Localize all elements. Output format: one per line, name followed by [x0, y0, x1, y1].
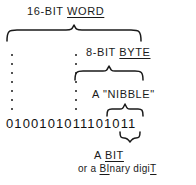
word-label-keyword: WORD: [67, 5, 104, 17]
nibble-label: A "NIBBLE": [92, 89, 155, 100]
bit-label-keyword: BIT: [105, 149, 124, 161]
guide-dot: [11, 81, 13, 83]
word-brace: [6, 24, 142, 42]
guide-dot: [11, 108, 13, 110]
bit-expansion-bi: BI: [100, 163, 110, 174]
bit-label-prefix: A: [94, 149, 105, 161]
guide-dot: [75, 108, 77, 110]
bit-brace: [119, 131, 141, 143]
binary-word-diagram: 16-BIT WORD 8-BIT BYTE A "NIBBLE": [0, 0, 196, 185]
byte-left-guide: [75, 54, 77, 117]
guide-dot: [75, 72, 77, 74]
byte-label-prefix: 8-BIT: [86, 46, 119, 58]
bit-expansion-t: T: [150, 163, 156, 174]
bit-expansion-prefix: or a: [78, 163, 100, 174]
guide-dot: [75, 54, 77, 56]
guide-dot: [75, 81, 77, 83]
bit-label: A BIT: [94, 150, 124, 161]
guide-dot: [11, 72, 13, 74]
guide-dot: [11, 90, 13, 92]
bit-expansion-label: or a BInary digiT: [78, 164, 157, 174]
word-left-guide: [11, 54, 13, 117]
byte-brace: [74, 65, 144, 81]
guide-dot: [75, 99, 77, 101]
byte-label-keyword: BYTE: [119, 46, 150, 58]
guide-dot: [11, 63, 13, 65]
guide-dot: [11, 54, 13, 56]
byte-label: 8-BIT BYTE: [86, 47, 151, 58]
guide-dot: [11, 99, 13, 101]
word-label: 16-BIT WORD: [27, 6, 104, 17]
nibble-brace: [106, 103, 144, 117]
guide-dot: [75, 90, 77, 92]
bit-expansion-middle: nary digi: [110, 163, 151, 174]
word-label-prefix: 16-BIT: [27, 5, 67, 17]
binary-string: 0100101011101011: [6, 116, 136, 131]
guide-dot: [75, 63, 77, 65]
